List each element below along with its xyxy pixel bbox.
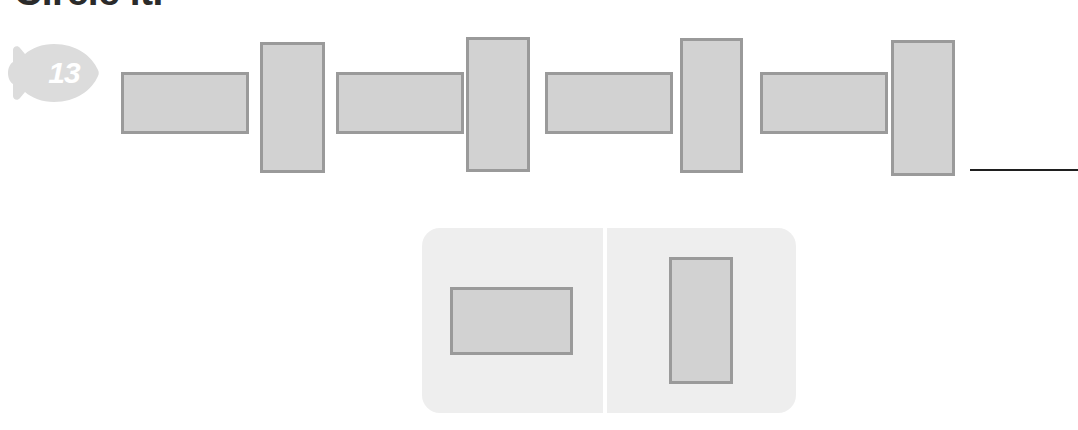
- option-b-panel[interactable]: [607, 228, 796, 413]
- option-a-panel[interactable]: [422, 228, 603, 413]
- pattern-shape-6: [680, 38, 743, 173]
- pattern-shape-3: [336, 72, 464, 134]
- option-a-shape: [450, 287, 573, 355]
- pattern-shape-8: [891, 40, 955, 176]
- pattern-shape-5: [545, 72, 673, 134]
- answer-options: [422, 228, 796, 413]
- answer-blank-line[interactable]: [970, 169, 1078, 171]
- pattern-shape-7: [760, 72, 888, 134]
- pattern-shape-4: [466, 37, 530, 172]
- pattern-shape-2: [260, 42, 325, 173]
- worksheet-page: Circle it. 13: [0, 0, 1078, 430]
- pattern-sequence: [0, 0, 1078, 200]
- option-b-shape: [669, 257, 733, 384]
- pattern-shape-1: [121, 72, 249, 134]
